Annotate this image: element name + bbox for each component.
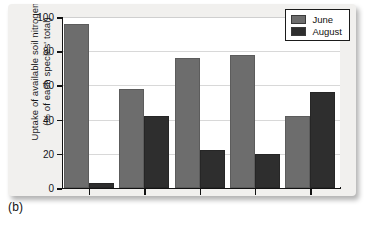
bar-august-2 xyxy=(144,116,169,188)
y-axis-tick-label: 20 xyxy=(28,148,54,159)
bar-june-3 xyxy=(175,58,200,188)
bar-group xyxy=(64,17,114,188)
legend-label-august: August xyxy=(312,26,342,37)
legend-item-august: August xyxy=(291,25,342,37)
y-axis-tick-label: 60 xyxy=(28,80,54,91)
legend-swatch-august-icon xyxy=(291,27,306,36)
y-axis-tick-mark xyxy=(57,85,62,87)
bar-june-1 xyxy=(64,24,89,188)
x-axis-tick-mark xyxy=(255,189,257,195)
y-axis-tick-mark xyxy=(57,120,62,122)
x-axis-tick-mark xyxy=(200,189,202,195)
y-axis-tick-mark xyxy=(57,154,62,156)
chart-card: Uptake of available soil nitrogen (% of … xyxy=(8,4,356,196)
bar-group xyxy=(285,17,335,188)
bar-group xyxy=(230,17,280,188)
y-axis-tick-mark xyxy=(57,188,62,190)
legend-swatch-june-icon xyxy=(291,15,306,24)
bar-june-5 xyxy=(285,116,310,188)
y-axis-tick-mark xyxy=(57,51,62,53)
plot-area xyxy=(63,17,340,188)
y-axis-tick-labels: 020406080100 xyxy=(22,4,54,196)
y-axis-tick-label: 40 xyxy=(28,114,54,125)
panel-label: (b) xyxy=(8,200,23,214)
bar-august-5 xyxy=(310,92,335,188)
bar-group xyxy=(175,17,225,188)
bar-group xyxy=(119,17,169,188)
figure-root: Uptake of available soil nitrogen (% of … xyxy=(0,0,368,226)
bar-august-4 xyxy=(255,154,280,188)
y-axis-tick-label: 80 xyxy=(28,46,54,57)
y-axis-tick-label: 100 xyxy=(28,12,54,23)
x-axis-tick-mark xyxy=(144,189,146,195)
y-axis-tick-mark xyxy=(57,17,62,19)
legend-label-june: June xyxy=(312,14,333,25)
x-axis-tick-mark xyxy=(310,189,312,195)
y-axis-tick-label: 0 xyxy=(28,183,54,194)
bar-august-1 xyxy=(89,183,114,188)
bar-june-2 xyxy=(119,89,144,188)
legend-item-june: June xyxy=(291,13,342,25)
bar-june-4 xyxy=(230,55,255,188)
x-axis-tick-mark xyxy=(89,189,91,195)
legend: June August xyxy=(285,9,350,41)
bar-august-3 xyxy=(200,150,225,188)
